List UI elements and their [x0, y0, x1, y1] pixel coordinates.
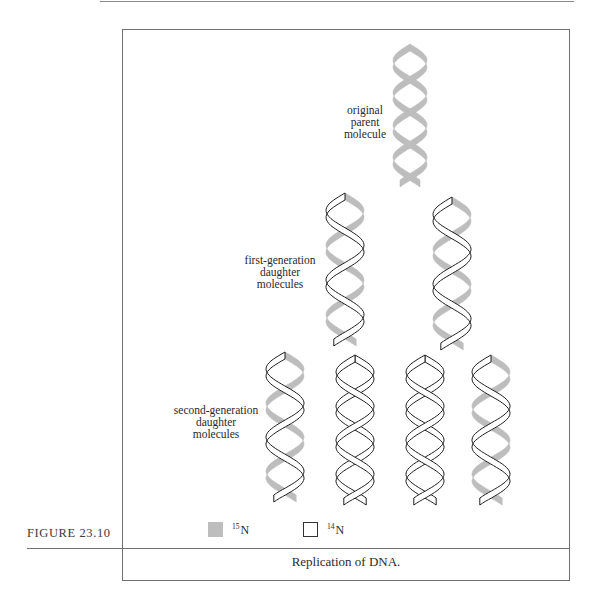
- dna-molecule-first: [433, 197, 471, 350]
- dna-molecule-second: [406, 355, 444, 505]
- label-line: molecules: [163, 428, 269, 440]
- legend-swatch-14n: [303, 522, 318, 537]
- label-line: parent: [330, 116, 400, 128]
- isotope-mass: 15: [232, 522, 240, 531]
- parent-molecule-label: original parent molecule: [330, 104, 400, 140]
- dna-molecule-second: [266, 352, 304, 502]
- second-generation-label: second-generation daughter molecules: [163, 404, 269, 440]
- label-line: molecules: [232, 278, 328, 290]
- legend-label-14n: 14N: [327, 522, 344, 538]
- label-line: daughter: [163, 416, 269, 428]
- label-line: molecule: [330, 128, 400, 140]
- first-generation-label: first-generation daughter molecules: [232, 254, 328, 290]
- legend-label-15n: 15N: [232, 522, 249, 538]
- label-line: original: [330, 104, 400, 116]
- legend-swatch-15n: [208, 522, 223, 537]
- figure-number: FIGURE 23.10: [27, 526, 111, 541]
- dna-molecule-second: [336, 355, 374, 505]
- label-line: second-generation: [163, 404, 269, 416]
- figure-caption: Replication of DNA.: [122, 554, 570, 570]
- element-symbol: N: [241, 523, 250, 537]
- isotope-mass: 14: [327, 522, 335, 531]
- dna-molecule-first: [326, 193, 364, 346]
- light-14n-strand: [433, 197, 471, 350]
- label-line: first-generation: [232, 254, 328, 266]
- label-line: daughter: [232, 266, 328, 278]
- dna-replication-diagram: [0, 0, 595, 613]
- element-symbol: N: [336, 523, 345, 537]
- light-14n-strand: [326, 193, 364, 346]
- dna-molecule-second: [472, 355, 510, 505]
